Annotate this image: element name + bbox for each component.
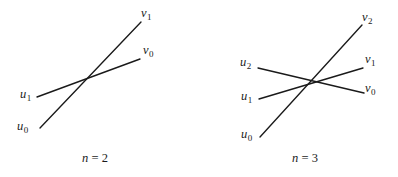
- edge-u1-v1: [259, 68, 363, 99]
- vertex-sub-v2: 2: [368, 16, 373, 26]
- caption-variable: n: [82, 151, 88, 165]
- caption-value: 2: [102, 151, 108, 165]
- panel-caption-n2: n = 2: [82, 152, 108, 165]
- vertex-base-u0: u: [17, 119, 23, 133]
- caption-variable: n: [292, 151, 298, 165]
- vertex-base-v1: v: [141, 6, 147, 20]
- vertex-base-v1: v: [365, 52, 371, 66]
- caption-equals: =: [91, 151, 98, 165]
- caption-equals: =: [301, 151, 308, 165]
- caption-value: 3: [312, 151, 318, 165]
- vertex-sub-u0: 0: [24, 125, 29, 135]
- vertex-sub-v1: 1: [147, 12, 152, 22]
- vertex-base-u1: u: [241, 89, 247, 103]
- vertex-label-u2: u2: [240, 56, 251, 69]
- vertex-label-u1: u1: [241, 90, 252, 103]
- vertex-base-u0: u: [241, 127, 247, 141]
- vertex-sub-v0: 0: [149, 49, 154, 59]
- vertex-label-v1: v1: [141, 7, 151, 20]
- vertex-label-v2: v2: [362, 11, 372, 24]
- diagram-panel-n2: u0 u1 v0 v1 n = 2: [0, 0, 199, 177]
- vertex-label-v1: v1: [365, 53, 375, 66]
- vertex-sub-u1: 1: [27, 93, 32, 103]
- edge-u1-v0: [37, 59, 140, 97]
- vertex-sub-v0: 0: [371, 87, 376, 97]
- vertex-label-v0: v0: [143, 44, 153, 57]
- diagram-panel-n3: u0 u1 u2 v0 v1 v2 n = 3: [199, 0, 398, 177]
- edge-u0-v1: [40, 22, 141, 128]
- vertex-sub-v1: 1: [371, 58, 376, 68]
- panel-caption-n3: n = 3: [292, 152, 318, 165]
- vertex-sub-u1: 1: [248, 95, 253, 105]
- vertex-label-v0: v0: [365, 82, 375, 95]
- vertex-label-u0: u0: [17, 120, 28, 133]
- vertex-label-u1: u1: [20, 88, 31, 101]
- vertex-base-u1: u: [20, 87, 26, 101]
- vertex-sub-u2: 2: [247, 61, 252, 71]
- vertex-base-v0: v: [365, 81, 371, 95]
- vertex-sub-u0: 0: [248, 133, 253, 143]
- crossing-number-figure: u0 u1 v0 v1 n = 2 u0 u1 u2: [0, 0, 398, 177]
- vertex-base-v0: v: [143, 43, 149, 57]
- vertex-base-v2: v: [362, 10, 368, 24]
- vertex-label-u0: u0: [241, 128, 252, 141]
- vertex-base-u2: u: [240, 55, 246, 69]
